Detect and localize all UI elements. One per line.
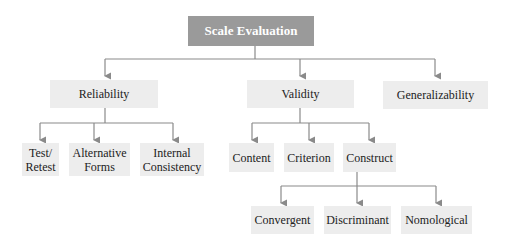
node-alternative-forms: Alternative Forms: [69, 143, 130, 176]
node-scale-evaluation: Scale Evaluation: [188, 16, 314, 46]
node-content: Content: [229, 143, 274, 172]
node-label: Discriminant: [326, 213, 389, 227]
node-label: Generalizability: [397, 88, 474, 102]
node-label: Convergent: [255, 213, 311, 227]
node-label-line1: Internal: [153, 146, 190, 160]
node-label: Scale Evaluation: [205, 24, 298, 38]
node-label-line2: Forms: [84, 160, 115, 174]
node-label: Construct: [346, 151, 393, 165]
node-label-line2: Retest: [26, 160, 56, 174]
node-label: Reliability: [79, 87, 130, 101]
node-test-retest: Test/ Retest: [22, 143, 59, 176]
node-label: Content: [233, 151, 271, 165]
node-label: Criterion: [287, 151, 330, 165]
node-nomological: Nomological: [401, 206, 472, 234]
node-construct: Construct: [343, 143, 396, 172]
node-criterion: Criterion: [284, 143, 334, 172]
node-convergent: Convergent: [251, 206, 314, 234]
node-generalizability: Generalizability: [383, 81, 488, 109]
node-internal-consistency: Internal Consistency: [140, 143, 204, 176]
node-reliability: Reliability: [50, 80, 158, 108]
node-label: Validity: [282, 87, 320, 101]
node-label: Nomological: [405, 213, 468, 227]
node-validity: Validity: [247, 80, 354, 108]
node-discriminant: Discriminant: [324, 206, 391, 234]
node-label-line2: Consistency: [143, 160, 202, 174]
node-label-line1: Alternative: [73, 146, 127, 160]
node-label-line1: Test/: [29, 146, 52, 160]
